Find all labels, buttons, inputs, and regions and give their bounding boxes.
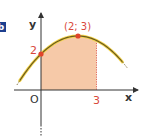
y-intercept-label: 2 [30,45,37,56]
vertex-point [75,33,80,38]
x-axis-label: x [125,92,132,103]
origin-label: O [30,94,39,105]
parabola-dashed-right [122,62,127,68]
shaded-area [41,36,97,90]
vertex-label: (2; 3) [64,21,91,32]
x-tick-3-label: 3 [93,95,100,106]
parabola-dashed-left [17,81,20,85]
y-axis-label: y [29,19,36,30]
y-intercept-point [38,51,43,56]
